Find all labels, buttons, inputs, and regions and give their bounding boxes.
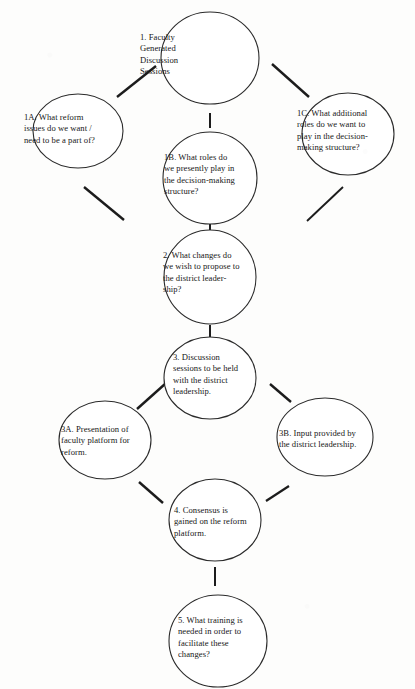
- node-3-discussion-sessions-with-district-leadership-label: 3. Discussion sessions to be held with t…: [173, 352, 269, 398]
- node-1a-what-reform-issues[interactable]: 1A. What reform issues do we want / need…: [24, 112, 124, 146]
- node-4-consensus-gained-on-reform-platform[interactable]: 4. Consensus is gained on the reform pla…: [174, 505, 274, 539]
- connector-3-to-3a: [137, 384, 165, 409]
- node-2-what-changes-to-propose[interactable]: 2. What changes do we wish to propose to…: [163, 250, 267, 296]
- node-3a-presentation-of-faculty-platform[interactable]: 3A. Presentation of faculty platform for…: [61, 424, 159, 458]
- connector-3-to-3b: [270, 384, 291, 402]
- node-3b-input-provided-by-district-leadership[interactable]: 3B. Input provided by the district leade…: [279, 428, 383, 451]
- node-4-consensus-gained-on-reform-platform-label: 4. Consensus is gained on the reform pla…: [174, 505, 274, 539]
- node-5-what-training-is-needed[interactable]: 5. What training is needed in order to f…: [178, 615, 273, 661]
- node-1c-what-additional-roles-label: 1C. What additional roles do we want to …: [297, 108, 401, 154]
- connector-3a-to-4: [139, 482, 163, 503]
- node-1-faculty-generated-discussion-sessions-label: 1. Faculty Generated Discussion Sessions: [140, 32, 232, 78]
- node-3b-input-provided-by-district-leadership-label: 3B. Input provided by the district leade…: [279, 428, 383, 451]
- connector-1c-to-2: [307, 187, 343, 221]
- node-1-faculty-generated-discussion-sessions[interactable]: 1. Faculty Generated Discussion Sessions: [140, 32, 232, 78]
- node-2-what-changes-to-propose-label: 2. What changes do we wish to propose to…: [163, 250, 267, 296]
- connector-1-to-1c: [272, 64, 309, 97]
- node-3a-presentation-of-faculty-platform-label: 3A. Presentation of faculty platform for…: [61, 424, 159, 458]
- node-5-what-training-is-needed-label: 5. What training is needed in order to f…: [178, 615, 273, 661]
- node-1b-what-roles-do-we-presently-play-label: 1B. What roles do we presently play in t…: [164, 152, 267, 198]
- flowchart-canvas: [0, 0, 415, 689]
- node-1b-what-roles-do-we-presently-play[interactable]: 1B. What roles do we presently play in t…: [164, 152, 267, 198]
- node-3-discussion-sessions-with-district-leadership[interactable]: 3. Discussion sessions to be held with t…: [173, 352, 269, 398]
- node-1c-what-additional-roles[interactable]: 1C. What additional roles do we want to …: [297, 108, 401, 154]
- connector-4-to-3b: [266, 486, 289, 501]
- node-1a-what-reform-issues-label: 1A. What reform issues do we want / need…: [24, 112, 124, 146]
- diagram-page: 1. Faculty Generated Discussion Sessions…: [0, 0, 415, 689]
- connector-1a-to-2: [84, 187, 124, 220]
